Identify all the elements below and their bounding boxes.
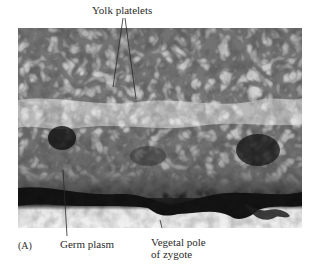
label-yolk-platelets: Yolk platelets: [92, 4, 152, 16]
micrograph-image: [18, 28, 302, 228]
label-vegetal-pole-line2: of zygote: [151, 248, 206, 260]
micrograph-texture: [18, 28, 302, 228]
panel-label: (A): [18, 240, 32, 252]
figure: Yolk platelets (A) Germ plasm Vegetal po…: [0, 0, 316, 269]
label-vegetal-pole-line1: Vegetal pole: [151, 236, 206, 248]
label-germ-plasm: Germ plasm: [60, 238, 114, 250]
label-vegetal-pole: Vegetal pole of zygote: [151, 236, 206, 260]
